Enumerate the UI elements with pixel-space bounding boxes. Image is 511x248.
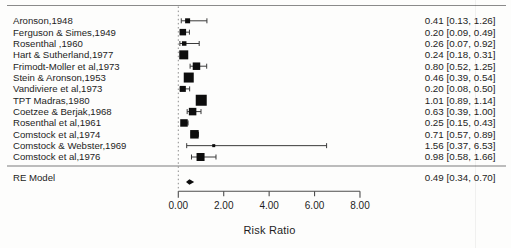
study-label: Rosenthal et al,1961 [13, 117, 101, 128]
study-estimate: 0.80 [0.52, 1.25] [425, 61, 496, 72]
study-label: Stein & Aronson,1953 [13, 72, 106, 83]
study-estimate: 0.98 [0.58, 1.66] [425, 151, 496, 162]
study-label: Vandiviere et al,1973 [13, 83, 102, 94]
study-point-square [197, 153, 205, 161]
study-estimate: 0.24 [0.18, 0.31] [425, 49, 496, 60]
study-point-square [182, 41, 187, 46]
x-tick-label: 8.00 [350, 200, 370, 211]
study-label: Comstock & Webster,1969 [13, 140, 126, 151]
scan-artifact-line [475, 0, 476, 248]
study-point-square [185, 18, 190, 23]
study-point-square [190, 130, 199, 139]
study-estimate: 0.46 [0.39, 0.54] [425, 72, 496, 83]
study-label: Coetzee & Berjak,1968 [13, 106, 112, 117]
study-estimate: 0.71 [0.57, 0.89] [425, 129, 496, 140]
x-tick-label: 4.00 [259, 200, 279, 211]
study-estimate: 0.63 [0.39, 1.00] [425, 106, 496, 117]
study-point-square [184, 73, 194, 83]
study-point-square [193, 62, 201, 69]
study-point-square [179, 50, 188, 59]
study-estimate: 1.01 [0.89, 1.14] [425, 95, 496, 106]
forest-plot: Aronson,19480.41 [0.13, 1.26]Ferguson & … [0, 0, 511, 248]
study-point-square [180, 86, 186, 92]
study-estimate: 0.20 [0.08, 0.50] [425, 83, 496, 94]
study-label: Rosenthal ,1960 [13, 38, 83, 49]
x-axis-title: Risk Ratio [178, 224, 361, 236]
study-label: Comstock et al,1974 [13, 129, 101, 140]
study-label: Hart & Sutherland,1977 [13, 49, 113, 60]
study-estimate: 0.25 [0.15, 0.43] [425, 117, 496, 128]
study-estimate: 0.26 [0.07, 0.92] [425, 38, 496, 49]
study-estimate: 1.56 [0.37, 6.53] [425, 140, 496, 151]
study-label: Frimodt-Moller et al,1973 [13, 61, 120, 72]
study-estimate: 0.20 [0.09, 0.49] [425, 27, 496, 38]
study-label: Comstock et al,1976 [13, 151, 100, 162]
x-tick-label: 0.00 [169, 200, 189, 211]
study-point-square [189, 108, 197, 116]
re-model-diamond [186, 179, 194, 184]
study-point-square [196, 95, 207, 106]
x-tick-label: 2.00 [214, 200, 234, 211]
summary-label: RE Model [13, 172, 55, 183]
study-estimate: 0.41 [0.13, 1.26] [425, 15, 496, 26]
study-label: Aronson,1948 [13, 15, 73, 26]
study-point-square [180, 119, 188, 127]
summary-estimate: 0.49 [0.34, 0.70] [425, 172, 496, 183]
study-label: TPT Madras,1980 [13, 95, 90, 106]
x-tick-label: 6.00 [305, 200, 325, 211]
study-point-square [180, 29, 187, 36]
forest-plot-canvas: Aronson,19480.41 [0.13, 1.26]Ferguson & … [0, 0, 511, 248]
study-label: Ferguson & Simes,1949 [13, 27, 116, 38]
study-point-square [212, 144, 215, 147]
